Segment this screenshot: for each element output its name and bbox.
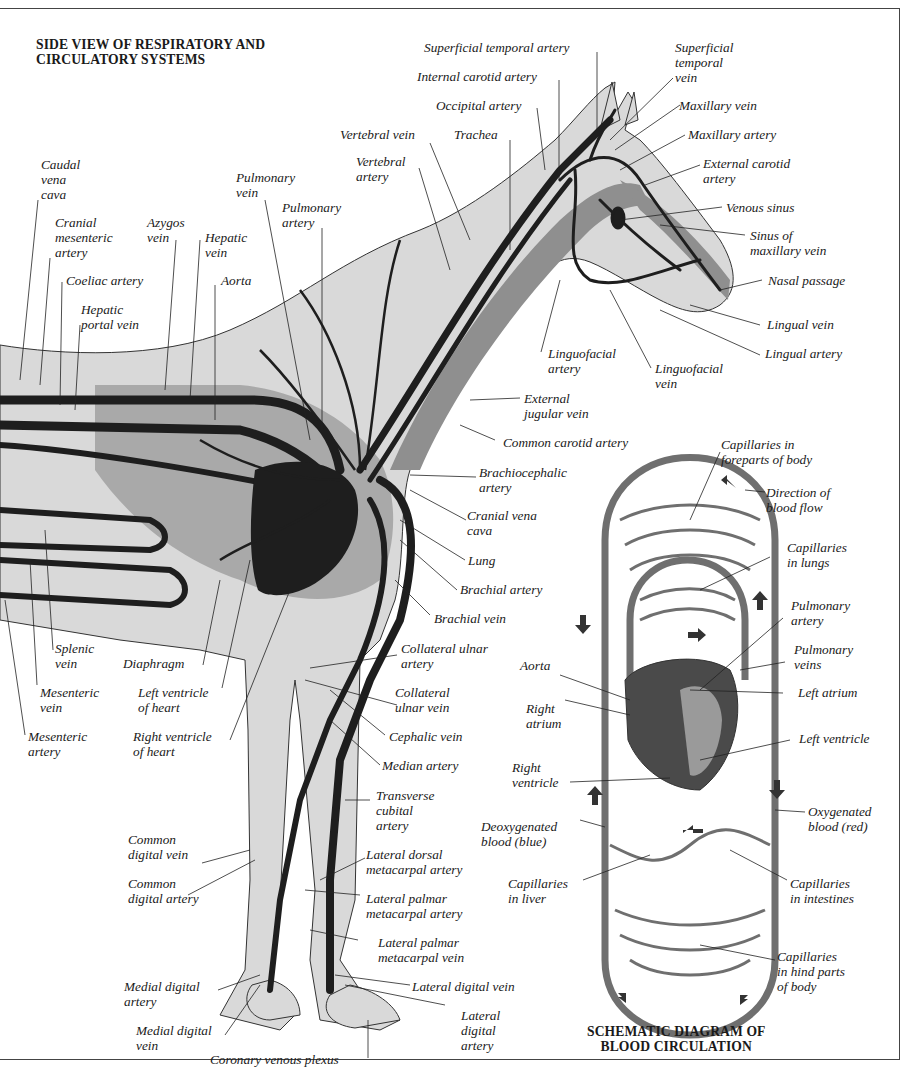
label-common-digital-vein: Common digital vein: [128, 832, 188, 862]
label-brachiocephalic-artery: Brachiocephalic artery: [479, 465, 567, 495]
label-mesenteric-artery: Mesenteric artery: [28, 729, 87, 759]
label-median-artery: Median artery: [382, 758, 458, 773]
label-collateral-ulnar-vein: Collateral ulnar vein: [395, 685, 450, 715]
label-right-ventricle: Right ventricle: [512, 760, 559, 790]
label-capillaries-foreparts: Capillaries in foreparts of body: [721, 437, 812, 467]
label-deoxygenated-blood: Deoxygenated blood (blue): [481, 819, 557, 849]
label-aorta: Aorta: [221, 273, 251, 288]
label-maxillary-artery: Maxillary artery: [688, 127, 776, 142]
label-medial-digital-artery: Medial digital artery: [124, 979, 200, 1009]
label-mesenteric-vein: Mesenteric vein: [40, 685, 99, 715]
label-trachea: Trachea: [454, 127, 498, 142]
label-superficial-temporal-vein: Superficial temporal vein: [675, 40, 733, 85]
label-left-ventricle: Left ventricle: [799, 731, 870, 746]
label-medial-digital-vein: Medial digital vein: [136, 1023, 212, 1053]
label-external-carotid-artery: External carotid artery: [703, 156, 790, 186]
label-capillaries-hind-parts: Capillaries in hind parts of body: [777, 949, 845, 994]
label-venous-sinus: Venous sinus: [726, 200, 794, 215]
label-pulmonary-vein: Pulmonary vein: [236, 170, 295, 200]
label-coeliac-artery: Coeliac artery: [66, 273, 143, 288]
label-azygos-vein: Azygos vein: [147, 215, 185, 245]
label-brachial-vein: Brachial vein: [434, 611, 506, 626]
label-sch-aorta: Aorta: [520, 658, 550, 673]
arrow-icon: [740, 995, 748, 1005]
arrow-icon: [575, 615, 591, 634]
label-cranial-vena-cava: Cranial vena cava: [467, 508, 537, 538]
label-coronary-venous-plexus: Coronary venous plexus: [210, 1052, 339, 1067]
label-lateral-digital-vein: Lateral digital vein: [412, 979, 515, 994]
label-splenic-vein: Splenic vein: [55, 641, 94, 671]
schematic-title: SCHEMATIC DIAGRAM OF BLOOD CIRCULATION: [587, 1024, 765, 1054]
label-capillaries-intestines: Capillaries in intestines: [790, 876, 854, 906]
label-collateral-ulnar-artery: Collateral ulnar artery: [401, 641, 488, 671]
label-superficial-temporal-artery: Superficial temporal artery: [424, 40, 570, 55]
label-caudal-vena-cava: Caudal vena cava: [41, 157, 80, 202]
label-hepatic-vein: Hepatic vein: [205, 230, 247, 260]
arrow-icon: [688, 628, 706, 642]
capillaries-lungs: [640, 589, 735, 620]
label-brachial-artery: Brachial artery: [460, 582, 542, 597]
capillaries-hind: [615, 910, 765, 975]
label-capillaries-lungs: Capillaries in lungs: [787, 540, 847, 570]
label-direction-of-blood-flow: Direction of blood flow: [766, 485, 830, 515]
label-lateral-palmar-metacarpal-vein: Lateral palmar metacarpal vein: [378, 935, 464, 965]
label-lateral-dorsal-metacarpal-artery: Lateral dorsal metacarpal artery: [366, 847, 462, 877]
label-lingual-vein: Lingual vein: [767, 317, 834, 332]
hoof-right: [326, 985, 400, 1028]
capillaries-liver-intestines: [610, 830, 770, 860]
label-linguofacial-artery: Linguofacial artery: [548, 346, 616, 376]
label-internal-carotid-artery: Internal carotid artery: [417, 69, 537, 84]
label-external-jugular-vein: External jugular vein: [524, 391, 589, 421]
label-right-atrium: Right atrium: [526, 701, 561, 731]
label-cephalic-vein: Cephalic vein: [389, 729, 462, 744]
label-hepatic-portal-vein: Hepatic portal vein: [81, 302, 139, 332]
label-occipital-artery: Occipital artery: [436, 98, 521, 113]
label-diaphragm: Diaphragm: [123, 656, 184, 671]
label-left-ventricle-of-heart: Left ventricle of heart: [138, 685, 209, 715]
arrow-icon: [769, 780, 785, 799]
label-lateral-digital-artery: Lateral digital artery: [461, 1008, 500, 1053]
arrow-icon: [587, 786, 603, 805]
label-lateral-palmar-metacarpal-artery: Lateral palmar metacarpal artery: [366, 891, 462, 921]
label-cranial-mesenteric-artery: Cranial mesenteric artery: [55, 215, 113, 260]
label-right-ventricle-of-heart: Right ventricle of heart: [133, 729, 212, 759]
label-capillaries-liver: Capillaries in liver: [508, 876, 568, 906]
label-sinus-of-maxillary-vein: Sinus of maxillary vein: [750, 228, 826, 258]
label-common-digital-artery: Common digital artery: [128, 876, 199, 906]
label-pulmonary-artery: Pulmonary artery: [282, 200, 341, 230]
label-maxillary-vein: Maxillary vein: [679, 98, 757, 113]
label-transverse-cubital-artery: Transverse cubital artery: [376, 788, 434, 833]
arrow-icon: [721, 475, 736, 488]
label-lingual-artery: Lingual artery: [765, 346, 842, 361]
label-left-atrium: Left atrium: [798, 685, 857, 700]
main-title: SIDE VIEW OF RESPIRATORY AND CIRCULATORY…: [36, 37, 265, 67]
label-vertebral-vein: Vertebral vein: [340, 127, 415, 142]
label-linguofacial-vein: Linguofacial vein: [655, 361, 723, 391]
label-sch-pulmonary-artery: Pulmonary artery: [791, 598, 850, 628]
label-nasal-passage: Nasal passage: [768, 273, 845, 288]
label-oxygenated-blood: Oxygenated blood (red): [808, 804, 872, 834]
label-common-carotid-artery: Common carotid artery: [503, 435, 628, 450]
label-lung: Lung: [468, 553, 495, 568]
arrow-icon: [752, 591, 768, 610]
venous-sinus: [612, 208, 624, 228]
label-vertebral-artery: Vertebral artery: [356, 154, 406, 184]
label-pulmonary-veins: Pulmonary veins: [794, 642, 853, 672]
arrow-icon: [683, 825, 703, 833]
